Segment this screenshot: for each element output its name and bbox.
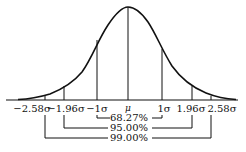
label-neg258: −2.58σ	[13, 103, 51, 114]
label-pos196: 1.96σ	[176, 103, 205, 114]
label-pos258: 2.58σ	[207, 103, 236, 114]
normal-distribution-diagram: −2.58σ −1.96σ −1σ μ 1σ 1.96σ 2.58σ 68.27…	[0, 0, 246, 152]
interval-9900: 99.00%	[110, 132, 148, 143]
label-neg1: −1σ	[86, 103, 108, 114]
label-neg196: −1.96σ	[47, 103, 85, 114]
label-pos1: 1σ	[157, 103, 170, 114]
bell-curve	[18, 7, 236, 100]
